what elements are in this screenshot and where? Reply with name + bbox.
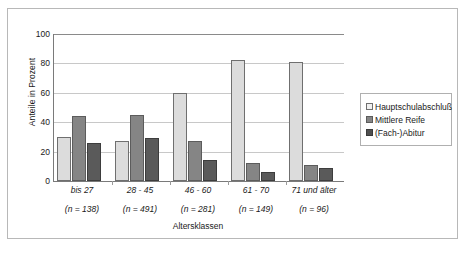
- legend-item: Mittlere Reife: [366, 113, 447, 126]
- bar: [173, 93, 187, 181]
- x-axis-category-count: (n = 491): [111, 204, 169, 215]
- y-axis-tick-column: 020406080100: [20, 9, 50, 240]
- bar-group: [112, 34, 170, 181]
- x-axis-category-block: bis 27(n = 138): [53, 185, 111, 215]
- chart-figure-frame: Anteile in Prozent 020406080100 bis 27(n…: [7, 8, 458, 239]
- bar: [57, 137, 71, 181]
- bar: [145, 138, 159, 181]
- bar: [87, 143, 101, 181]
- x-axis-category-label: bis 27: [53, 185, 111, 196]
- x-axis-category-count: (n = 96): [285, 204, 343, 215]
- y-axis-tick-label: 100: [24, 29, 50, 39]
- x-axis-category-block: 46 - 60(n = 281): [169, 185, 227, 215]
- bar: [289, 62, 303, 181]
- bar: [72, 116, 86, 181]
- x-axis-title: Altersklassen: [53, 221, 343, 231]
- y-axis-tick-label: 40: [24, 117, 50, 127]
- legend-item: Hauptschulabschluß: [366, 100, 447, 113]
- chart-plot-wrapper: Anteile in Prozent 020406080100 bis 27(n…: [8, 9, 459, 240]
- legend-item: (Fach-)Abitur: [366, 126, 447, 139]
- legend-item-label: Mittlere Reife: [375, 115, 425, 125]
- bar-group: [170, 34, 228, 181]
- bar: [203, 160, 217, 181]
- x-axis-category-label: 71 und älter: [285, 185, 343, 196]
- bar: [188, 141, 202, 181]
- legend-item-label: Hauptschulabschluß: [375, 102, 452, 112]
- bar: [319, 168, 333, 181]
- y-axis-tick-label: 0: [24, 176, 50, 186]
- x-axis-category-block: 28 - 45(n = 491): [111, 185, 169, 215]
- chart-legend: Hauptschulabschluß Mittlere Reife (Fach-…: [360, 93, 452, 146]
- y-axis-tick-label: 20: [24, 147, 50, 157]
- x-axis-category-label: 46 - 60: [169, 185, 227, 196]
- bar-group: [286, 34, 344, 181]
- bar: [115, 141, 129, 181]
- legend-item-label: (Fach-)Abitur: [375, 128, 425, 138]
- medium-gray-swatch-icon: [366, 116, 373, 123]
- bar: [261, 172, 275, 181]
- x-axis-category-count: (n = 281): [169, 204, 227, 215]
- x-axis-category-label: 28 - 45: [111, 185, 169, 196]
- x-axis-category-block: 71 und älter(n = 96): [285, 185, 343, 215]
- x-axis-category-block: 61 - 70(n = 149): [227, 185, 285, 215]
- bars-layer: [54, 34, 344, 181]
- y-axis-tick-label: 80: [24, 58, 50, 68]
- bar: [304, 165, 318, 181]
- bar: [130, 115, 144, 181]
- plot-area: [53, 34, 344, 182]
- bar-group: [228, 34, 286, 181]
- bar-group: [54, 34, 112, 181]
- light-gray-swatch-icon: [366, 103, 373, 110]
- bar: [246, 163, 260, 181]
- dark-gray-swatch-icon: [366, 129, 373, 136]
- x-axis-category-count: (n = 149): [227, 204, 285, 215]
- x-axis-category-label: 61 - 70: [227, 185, 285, 196]
- y-axis-tick-label: 60: [24, 88, 50, 98]
- bar: [231, 60, 245, 181]
- x-axis-category-count: (n = 138): [53, 204, 111, 215]
